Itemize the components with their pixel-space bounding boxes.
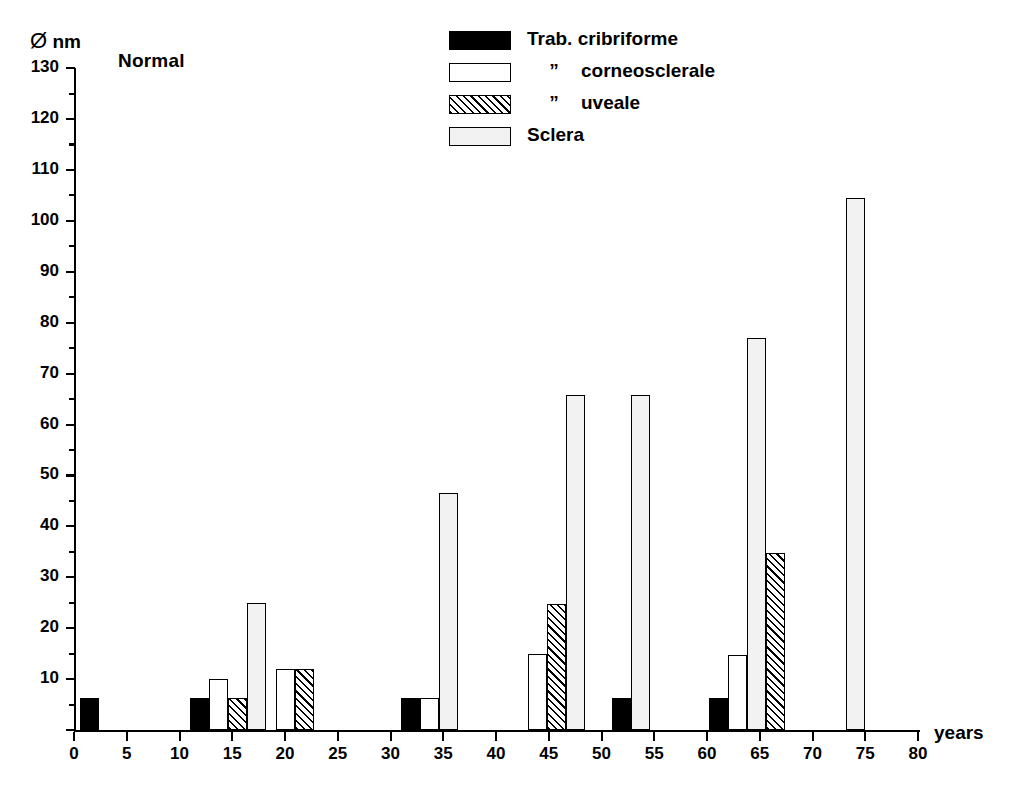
bar-empty <box>209 679 228 730</box>
y-axis-tick-label: 100 <box>13 210 59 230</box>
x-axis-tick <box>653 732 655 741</box>
x-axis-tick-label: 75 <box>845 744 885 764</box>
bar-stipple <box>631 395 650 730</box>
y-axis-minor-tick <box>69 93 75 95</box>
y-axis-major-tick <box>66 576 75 578</box>
y-axis-tick-label: 120 <box>13 108 59 128</box>
x-axis-tick-label: 40 <box>476 744 516 764</box>
y-axis-tick-label: 60 <box>13 414 59 434</box>
y-axis-major-tick <box>66 627 75 629</box>
bar-empty <box>420 698 439 730</box>
bar-chart: Ø nm Normal years Trab. cribriforme”corn… <box>0 0 1023 796</box>
y-axis-minor-tick <box>69 551 75 553</box>
x-axis-tick <box>337 732 339 741</box>
y-axis-major-tick <box>66 678 75 680</box>
bar-stipple <box>247 603 266 730</box>
y-axis-tick-label: 10 <box>13 668 59 688</box>
y-axis-tick-label: 110 <box>13 159 59 179</box>
y-axis-tick-label: 130 <box>13 57 59 77</box>
y-axis-major-tick <box>66 525 75 527</box>
y-axis-major-tick <box>66 169 75 171</box>
bar-empty <box>276 669 295 730</box>
bar-stipple <box>846 198 865 730</box>
y-axis-tick-label: 50 <box>13 464 59 484</box>
y-axis-minor-tick <box>69 194 75 196</box>
bar-solid <box>80 698 100 730</box>
x-axis-tick-label: 55 <box>634 744 674 764</box>
x-axis-tick-label: 5 <box>107 744 147 764</box>
x-axis-tick <box>548 732 550 741</box>
y-axis-major-tick <box>66 322 75 324</box>
y-axis-minor-tick <box>69 296 75 298</box>
y-axis-major-tick <box>66 271 75 273</box>
x-axis-tick <box>284 732 286 741</box>
y-axis-major-tick <box>66 373 75 375</box>
x-axis-tick <box>231 732 233 741</box>
x-axis-tick <box>126 732 128 741</box>
bar-solid <box>190 698 209 730</box>
x-axis-tick <box>73 732 75 741</box>
x-axis-tick-label: 50 <box>582 744 622 764</box>
y-axis-tick-label: 40 <box>13 515 59 535</box>
y-axis-major-tick <box>66 474 75 476</box>
y-axis-minor-tick <box>69 653 75 655</box>
x-axis-tick <box>812 732 814 741</box>
x-axis-tick-label: 70 <box>793 744 833 764</box>
bar-stipple <box>439 493 458 730</box>
bar-empty <box>728 655 747 730</box>
y-axis-minor-tick <box>69 704 75 706</box>
x-axis-tick-label: 30 <box>371 744 411 764</box>
x-axis-tick-label: 0 <box>54 744 94 764</box>
y-axis-minor-tick <box>69 347 75 349</box>
y-axis-minor-tick <box>69 602 75 604</box>
x-axis-tick <box>706 732 708 741</box>
x-axis-tick <box>864 732 866 741</box>
x-axis-tick <box>917 732 919 741</box>
y-axis-tick-label: 70 <box>13 363 59 383</box>
bar-hatch <box>766 553 785 730</box>
y-axis-tick-label: 30 <box>13 566 59 586</box>
x-axis-tick <box>759 732 761 741</box>
x-axis-tick <box>601 732 603 741</box>
y-axis-minor-tick <box>69 245 75 247</box>
x-axis-tick <box>390 732 392 741</box>
y-axis-minor-tick <box>69 143 75 145</box>
y-axis-tick-label: 20 <box>13 617 59 637</box>
y-axis-major-tick <box>66 67 75 69</box>
x-axis-tick-label: 60 <box>687 744 727 764</box>
x-axis-tick-label: 15 <box>212 744 252 764</box>
y-axis-major-tick <box>66 424 75 426</box>
y-axis-minor-tick <box>69 398 75 400</box>
bar-empty <box>528 654 547 730</box>
bar-solid <box>401 698 420 730</box>
x-axis-tick <box>495 732 497 741</box>
bar-solid <box>709 698 728 730</box>
bar-solid <box>612 698 631 730</box>
y-axis-minor-tick <box>69 449 75 451</box>
x-axis-tick-label: 25 <box>318 744 358 764</box>
bar-hatch <box>295 669 314 730</box>
bar-stipple <box>566 395 585 730</box>
x-axis-tick-label: 45 <box>529 744 569 764</box>
bar-stipple <box>747 338 766 730</box>
plot-area: 1020304050607080901001101201300510152025… <box>0 0 1023 796</box>
x-axis-tick <box>179 732 181 741</box>
x-axis-tick-label: 20 <box>265 744 305 764</box>
x-axis-tick <box>442 732 444 741</box>
x-axis-tick-label: 35 <box>423 744 463 764</box>
x-axis-tick-label: 80 <box>898 744 938 764</box>
y-axis-tick-label: 90 <box>13 261 59 281</box>
y-axis-minor-tick <box>69 500 75 502</box>
y-axis-major-tick <box>66 220 75 222</box>
x-axis-tick-label: 10 <box>160 744 200 764</box>
x-axis-tick-label: 65 <box>740 744 780 764</box>
y-axis-tick-label: 80 <box>13 312 59 332</box>
bar-hatch <box>547 604 566 730</box>
y-axis-major-tick <box>66 118 75 120</box>
bar-hatch <box>228 698 247 730</box>
